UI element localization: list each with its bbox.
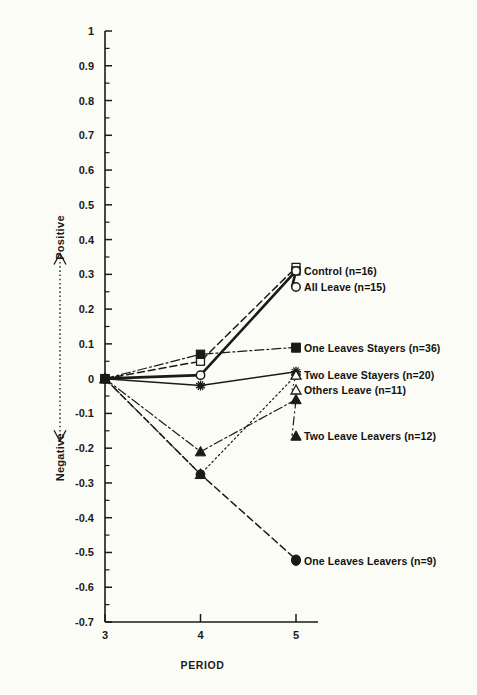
negative-direction-label: Negative [54, 433, 66, 481]
y-tick-label: 0.7 [79, 129, 94, 141]
series-layer [100, 263, 301, 565]
open-circle-marker [292, 283, 300, 291]
star-marker [196, 381, 206, 391]
y-tick-label: -0.1 [75, 407, 94, 419]
series-label-5: Two Leave Leavers (n=12) [304, 430, 436, 442]
filled-triangle-marker [195, 446, 205, 455]
y-tick-label: 0.9 [79, 60, 94, 72]
y-tick-label: -0.4 [75, 512, 95, 524]
filled-circle-marker [101, 374, 110, 383]
y-tick-label: 0.8 [79, 95, 94, 107]
series-label-6: One Leaves Leavers (n=9) [304, 555, 436, 567]
filled-square-marker [292, 344, 300, 352]
x-tick-label: 5 [293, 629, 299, 641]
series-label-1: All Leave (n=15) [304, 281, 386, 293]
series-label-0: Control (n=16) [304, 265, 377, 277]
direction-arrow-layer: PositiveNegative [54, 215, 66, 481]
y-tick-label: 0.2 [79, 303, 94, 315]
y-tick-label: -0.7 [75, 616, 94, 628]
series-label-4: Others Leave (n=11) [304, 384, 406, 396]
line-chart: 10.90.80.70.60.50.40.30.20.10-0.1-0.2-0.… [0, 0, 477, 695]
series-label-3: Two Leave Stayers (n=20) [304, 369, 434, 381]
x-tick-label: 3 [102, 629, 108, 641]
x-axis-title: PERIOD [181, 659, 225, 671]
series-leader-line [292, 400, 296, 436]
x-tick-label: 4 [197, 629, 204, 641]
y-tick-label: 0.6 [79, 164, 94, 176]
series-labels-layer: Control (n=16)All Leave (n=15)One Leaves… [304, 265, 440, 567]
y-tick-label: 1 [88, 25, 94, 37]
positive-direction-label: Positive [54, 215, 66, 260]
y-tick-label: -0.5 [75, 546, 94, 558]
y-tick-label: 0.3 [79, 268, 94, 280]
y-tick-label: 0.4 [79, 234, 95, 246]
y-tick-label: 0.1 [79, 338, 94, 350]
filled-square-marker [196, 350, 204, 358]
y-tick-label: 0.5 [79, 199, 94, 211]
y-tick-label: -0.2 [75, 442, 94, 454]
y-tick-label: -0.6 [75, 581, 94, 593]
series-6 [101, 374, 301, 565]
axes-layer: 10.90.80.70.60.50.40.30.20.10-0.1-0.2-0.… [75, 25, 318, 671]
filled-circle-marker [196, 470, 205, 479]
open-circle-marker [292, 267, 300, 275]
y-tick-label: 0 [88, 373, 94, 385]
y-tick-label: -0.3 [75, 477, 94, 489]
filled-circle-marker [292, 557, 301, 566]
series-0 [101, 263, 300, 382]
open-circle-marker [196, 371, 204, 379]
chart-page: 10.90.80.70.60.50.40.30.20.10-0.1-0.2-0.… [0, 0, 477, 695]
filled-triangle-marker [291, 394, 301, 403]
series-label-2: One Leaves Stayers (n=36) [304, 342, 440, 354]
